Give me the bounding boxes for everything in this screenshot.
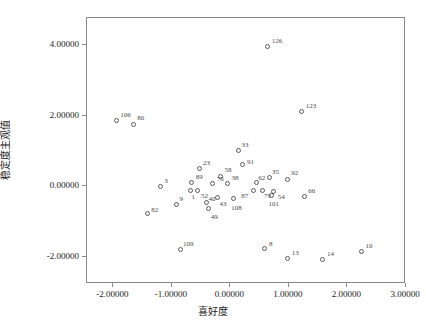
y-axis-tick-label: 4.00000	[50, 39, 79, 49]
x-axis-tick-label: 2.00000	[332, 289, 361, 299]
data-point-label: 87	[241, 193, 248, 200]
data-points-layer: 1261231068033912358359289763862315287795…	[87, 18, 404, 282]
data-point	[265, 44, 270, 49]
data-point-label: 14	[327, 251, 334, 258]
data-point-label: 40	[208, 196, 215, 203]
data-point-label: 49	[211, 214, 218, 221]
data-point-label: 82	[151, 207, 158, 214]
data-point	[359, 249, 364, 254]
data-point	[210, 181, 215, 186]
x-axis-tick-label: -1.00000	[155, 289, 187, 299]
data-point	[320, 257, 325, 262]
data-point	[189, 180, 194, 185]
data-point-label: 106	[120, 112, 131, 119]
data-point-label: 1	[192, 194, 196, 201]
x-axis-tick	[346, 283, 347, 287]
data-point-label: 76	[217, 176, 224, 183]
data-point	[188, 188, 193, 193]
data-point-label: 80	[137, 115, 144, 122]
x-axis-tick-label: 1.00000	[273, 289, 302, 299]
x-axis-tick-label: 0.00000	[215, 289, 244, 299]
data-point	[285, 177, 290, 182]
data-point-label: 66	[308, 188, 315, 195]
data-point-label: 13	[292, 250, 299, 257]
data-point-label: 109	[183, 241, 194, 248]
data-point	[145, 211, 150, 216]
data-point	[131, 122, 136, 127]
data-point-label: 92	[291, 170, 298, 177]
data-point-label: 10	[366, 243, 373, 250]
x-axis-tick	[288, 283, 289, 287]
data-point	[231, 196, 236, 201]
data-point	[206, 206, 211, 211]
data-point-label: 43	[220, 201, 227, 208]
x-axis-title: 喜好度	[0, 303, 426, 318]
data-point-label: 9	[180, 196, 184, 203]
data-point-label: 91	[247, 159, 254, 166]
x-axis-tick-label: -2.00000	[96, 289, 128, 299]
data-point	[269, 193, 274, 198]
data-point	[240, 162, 245, 167]
data-point	[299, 109, 304, 114]
data-point-label: 33	[242, 142, 249, 149]
data-point	[302, 194, 307, 199]
data-point-label: 58	[224, 167, 231, 174]
data-point-label: 8	[269, 241, 273, 248]
data-point	[114, 118, 119, 123]
data-point-label: 89	[196, 174, 203, 181]
data-point	[178, 247, 183, 252]
data-point	[158, 184, 163, 189]
data-point-label: 23	[203, 160, 210, 167]
x-axis-tick-label: 3.00000	[390, 289, 419, 299]
x-axis-tick	[171, 283, 172, 287]
data-point-label: 101	[268, 201, 279, 208]
y-axis-tick-label: 0.00000	[50, 180, 79, 190]
data-point	[285, 256, 290, 261]
x-axis-tick	[405, 283, 406, 287]
x-axis-tick	[229, 283, 230, 287]
scatter-plot-page: 稳定度主观值 -2.000000.000002.000004.00000 -2.…	[0, 0, 426, 335]
data-point-label: 52	[201, 193, 208, 200]
y-axis-title: 稳定度主观值	[0, 120, 12, 180]
data-point	[251, 188, 256, 193]
data-point-label: 62	[258, 175, 265, 182]
y-axis-tick-label: -2.00000	[47, 251, 79, 261]
y-axis-tick-label: 2.00000	[50, 110, 79, 120]
data-point	[174, 202, 179, 207]
data-point	[262, 246, 267, 251]
data-point-label: 123	[306, 103, 317, 110]
data-point-label: 108	[231, 205, 242, 212]
x-axis-tick	[112, 283, 113, 287]
data-point-label: 38	[231, 175, 238, 182]
data-point	[215, 195, 220, 200]
data-point	[225, 181, 230, 186]
data-point	[197, 166, 202, 171]
data-point	[267, 175, 272, 180]
data-point-label: 35	[272, 169, 279, 176]
data-point	[195, 188, 200, 193]
plot-frame: 1261231068033912358359289763862315287795…	[86, 17, 405, 283]
data-point-label: 126	[272, 38, 283, 45]
data-point	[236, 148, 241, 153]
data-point-label: 3	[164, 178, 168, 185]
